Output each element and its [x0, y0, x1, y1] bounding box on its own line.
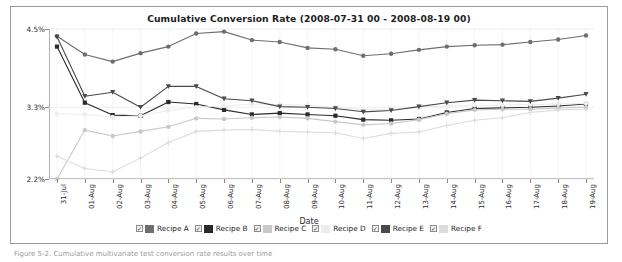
legend-label: Recipe E [392, 224, 424, 233]
x-tick-mark [252, 179, 253, 183]
x-tick-label: 31-Jul [60, 184, 68, 204]
x-tick-mark [280, 179, 281, 183]
y-tick-mark [45, 179, 49, 180]
legend-item[interactable]: ✓Recipe F [430, 224, 482, 233]
x-tick-mark [475, 179, 476, 183]
x-tick-label: 04-Aug [171, 184, 179, 209]
x-tick-mark [57, 179, 58, 183]
legend-color-swatch [381, 225, 390, 233]
x-tick-mark [113, 179, 114, 183]
legend-checkbox[interactable]: ✓ [312, 225, 319, 232]
y-tick-mark [45, 29, 49, 30]
plot-svg [49, 29, 594, 179]
legend-color-swatch [204, 225, 213, 233]
figure-frame: Cumulative Conversion Rate (2008-07-31 0… [10, 6, 608, 244]
y-tick-label: 3.3% [26, 103, 45, 112]
x-tick-label: 11-Aug [366, 184, 374, 209]
x-tick-label: 06-Aug [227, 184, 235, 209]
legend-item[interactable]: ✓Recipe C [254, 224, 307, 233]
x-tick-mark [308, 179, 309, 183]
legend-label: Recipe B [215, 224, 248, 233]
legend-label: Recipe A [156, 224, 189, 233]
chart-legend: ✓Recipe A✓Recipe B✓Recipe C✓Recipe D✓Rec… [11, 224, 607, 233]
legend-checkbox[interactable]: ✓ [195, 225, 202, 232]
legend-color-swatch [321, 225, 330, 233]
x-tick-label: 02-Aug [116, 184, 124, 209]
legend-color-swatch [145, 225, 154, 233]
x-tick-mark [530, 179, 531, 183]
x-tick-label: 10-Aug [338, 184, 346, 209]
figure-caption: Figure 5-2. Cumulative multivariate test… [14, 250, 614, 261]
legend-item[interactable]: ✓Recipe D [312, 224, 365, 233]
x-tick-label: 14-Aug [450, 184, 458, 209]
x-tick-label: 17-Aug [533, 184, 541, 209]
legend-color-swatch [439, 225, 448, 233]
x-tick-label: 18-Aug [561, 184, 569, 209]
x-tick-label: 07-Aug [255, 184, 263, 209]
x-tick-mark [141, 179, 142, 183]
x-tick-label: 08-Aug [283, 184, 291, 209]
x-tick-label: 19-Aug [589, 184, 597, 209]
legend-color-swatch [263, 225, 272, 233]
x-tick-mark [447, 179, 448, 183]
x-tick-mark [224, 179, 225, 183]
legend-item[interactable]: ✓Recipe B [195, 224, 248, 233]
legend-checkbox[interactable]: ✓ [372, 225, 379, 232]
x-tick-mark [363, 179, 364, 183]
y-tick-mark [45, 107, 49, 108]
x-tick-mark [335, 179, 336, 183]
x-tick-label: 01-Aug [88, 184, 96, 209]
plot-wrapper: Conversion Rate 2.2%3.3%4.5% 31-Jul01-Au… [49, 29, 594, 179]
legend-label: Recipe C [274, 224, 307, 233]
x-tick-label: 16-Aug [505, 184, 513, 209]
chart-title: Cumulative Conversion Rate (2008-07-31 0… [11, 13, 607, 24]
y-tick-label: 4.5% [26, 25, 45, 34]
x-tick-mark [168, 179, 169, 183]
x-tick-label: 03-Aug [144, 184, 152, 209]
x-tick-mark [586, 179, 587, 183]
x-tick-mark [85, 179, 86, 183]
x-tick-mark [502, 179, 503, 183]
y-tick-label: 2.2% [26, 175, 45, 184]
x-tick-mark [196, 179, 197, 183]
legend-item[interactable]: ✓Recipe A [136, 224, 189, 233]
legend-checkbox[interactable]: ✓ [254, 225, 261, 232]
x-tick-label: 09-Aug [311, 184, 319, 209]
x-tick-label: 12-Aug [394, 184, 402, 209]
legend-checkbox[interactable]: ✓ [430, 225, 437, 232]
legend-label: Recipe F [450, 224, 482, 233]
x-tick-mark [419, 179, 420, 183]
legend-label: Recipe D [332, 224, 365, 233]
x-tick-mark [558, 179, 559, 183]
legend-item[interactable]: ✓Recipe E [372, 224, 424, 233]
x-tick-label: 05-Aug [199, 184, 207, 209]
x-tick-label: 15-Aug [478, 184, 486, 209]
x-tick-label: 13-Aug [422, 184, 430, 209]
x-tick-mark [391, 179, 392, 183]
legend-checkbox[interactable]: ✓ [136, 225, 143, 232]
